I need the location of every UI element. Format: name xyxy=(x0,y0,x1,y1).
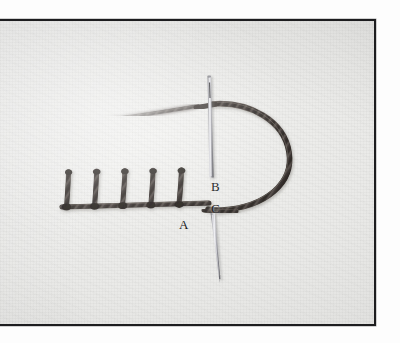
point-label-c: C xyxy=(211,202,220,215)
point-label-b: B xyxy=(211,180,220,193)
photo-frame: A B C xyxy=(0,19,376,326)
fabric-surface: A B C xyxy=(0,21,374,324)
needle-upper-shaft xyxy=(207,76,213,178)
needle-lower-shaft xyxy=(211,213,221,283)
point-label-a: A xyxy=(179,218,189,231)
sewing-needle xyxy=(0,21,374,324)
scan-page: A B C xyxy=(0,0,400,343)
